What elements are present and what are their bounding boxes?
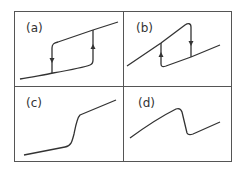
arrow-down-icon [50, 58, 55, 63]
panel-d: (d) [130, 96, 220, 138]
arrow-up-icon [91, 44, 96, 49]
panel-d-label: (d) [138, 96, 155, 110]
panel-c: (c) [24, 96, 116, 155]
panel-b-label: (b) [136, 21, 153, 35]
panel-d-curve [130, 109, 220, 138]
panel-a-lower-branch [20, 30, 93, 79]
panel-a-upper-branch [52, 22, 118, 73]
panel-a: (a) [20, 21, 118, 79]
panel-a-label: (a) [26, 21, 43, 35]
panel-c-label: (c) [26, 96, 42, 110]
panel-b: (b) [127, 21, 220, 67]
figure-canvas: (a) (b) (c) (d) [0, 0, 240, 169]
arrow-down-icon [189, 41, 194, 46]
arrow-up-icon [159, 52, 164, 57]
